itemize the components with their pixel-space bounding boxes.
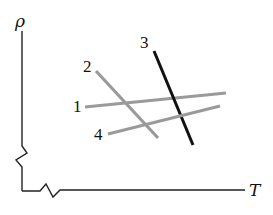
x-axis — [22, 184, 245, 197]
line-label-2: 2 — [83, 57, 92, 76]
y-axis — [16, 31, 27, 191]
x-axis-label: T — [249, 180, 262, 200]
line-4 — [108, 106, 220, 134]
line-label-3: 3 — [140, 33, 149, 52]
rho-temperature-diagram: ρ T 1234 — [0, 0, 273, 215]
line-1 — [85, 93, 226, 107]
line-label-1: 1 — [73, 97, 82, 116]
y-axis-label: ρ — [14, 11, 25, 31]
process-lines: 1234 — [73, 33, 226, 145]
line-label-4: 4 — [94, 125, 103, 144]
